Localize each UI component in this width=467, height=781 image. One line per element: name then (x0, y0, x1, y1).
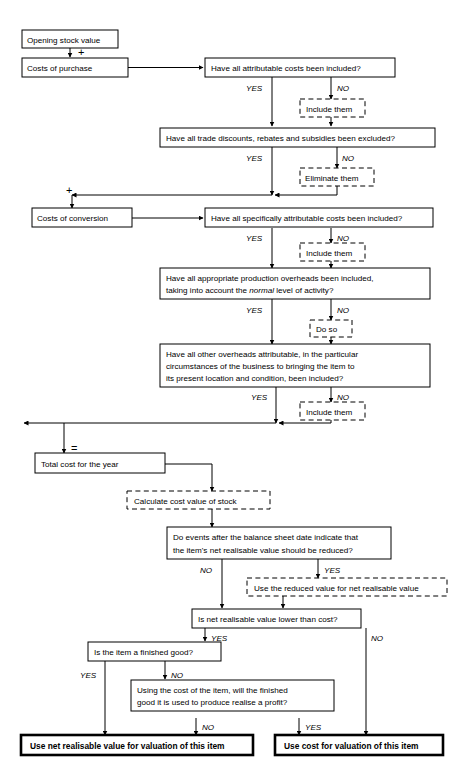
edge-label-q5-no: NO (337, 393, 350, 402)
node-include-them-3: Include them (300, 402, 365, 420)
node-include-them-1: Include them (300, 99, 365, 117)
node-costs-of-purchase-label: Costs of purchase (27, 64, 93, 73)
flowchart-canvas: + + = Opening stock value Costs of purch… (0, 0, 467, 781)
node-opening-stock-value: Opening stock value (22, 30, 118, 48)
node-eliminate-them: Eliminate them (300, 168, 374, 186)
node-q-trade-discounts-label: Have all trade discounts, rebates and su… (166, 134, 396, 143)
node-include-them-2: Include them (300, 243, 365, 261)
edge-label-q4-yes: YES (246, 306, 263, 315)
edge-label-q9-no: NO (202, 723, 215, 732)
node-result-use-cost-label: Use cost for valuation of this item (284, 741, 419, 751)
edge-label-q4-no: NO (337, 306, 350, 315)
node-include-them-3-label: Include them (306, 408, 353, 417)
node-eliminate-them-label: Eliminate them (305, 174, 359, 183)
edge-label-q6-no: NO (200, 566, 213, 575)
node-q-other-overheads: Have all other overheads attributable, i… (160, 344, 430, 387)
node-include-them-1-label: Include them (306, 105, 353, 114)
pol2-b: level of activity? (274, 286, 334, 295)
edge-label-q3-yes: YES (246, 234, 263, 243)
edge-label-q5-yes: YES (251, 393, 268, 402)
node-q-specifically-attributable-label: Have all specifically attributable costs… (211, 214, 403, 223)
node-q-finished-good: Is the item a finished good? (88, 642, 221, 661)
node-opening-stock-value-label: Opening stock value (27, 36, 101, 45)
node-costs-of-purchase: Costs of purchase (22, 58, 128, 77)
node-q-events-line2: the item's net realisable value should b… (173, 546, 353, 555)
edge-label-q8-yes: YES (80, 671, 97, 680)
node-q-finished-good-label: Is the item a finished good? (94, 648, 193, 657)
edge-label-q8-no: NO (171, 671, 184, 680)
node-result-use-nrv-label: Use net realisable value for valuation o… (30, 741, 225, 751)
edge-label-q2-yes: YES (246, 154, 263, 163)
node-q-specifically-attributable: Have all specifically attributable costs… (205, 208, 433, 227)
edge-label-q2-no: NO (342, 154, 355, 163)
node-do-so-label: Do so (316, 325, 338, 334)
equals-symbol: = (71, 442, 77, 454)
node-costs-of-conversion-label: Costs of conversion (37, 214, 108, 223)
node-total-cost-for-the-year-label: Total cost for the year (41, 460, 119, 469)
node-q-attributable-costs: Have all attributable costs been include… (205, 58, 395, 77)
node-q-attributable-costs-label: Have all attributable costs been include… (211, 64, 361, 73)
node-use-reduced-value: Use the reduced value for net realisable… (247, 578, 447, 596)
node-q-production-overheads-line1: Have all appropriate production overhead… (166, 274, 373, 283)
node-q-events-line1: Do events after the balance sheet date i… (173, 533, 359, 542)
node-calculate-cost-value: Calculate cost value of stock (127, 491, 270, 509)
node-q-other-overheads-line3: its present location and condition, been… (166, 374, 344, 383)
node-total-cost-for-the-year: Total cost for the year (35, 453, 165, 473)
edge-label-q7-no: NO (371, 634, 384, 643)
edge-label-q1-no: NO (337, 84, 350, 93)
node-q-profit-line1: Using the cost of the item, will the fin… (137, 686, 288, 695)
node-q-profit-line2: good it is used to produce realise a pro… (137, 698, 288, 707)
connector-layer (24, 48, 366, 735)
node-result-use-nrv: Use net realisable value for valuation o… (21, 735, 253, 755)
edge-eliminate-to-bus (275, 186, 337, 195)
node-q-production-overheads-line2: taking into account the normal level of … (166, 286, 334, 295)
node-q-nrv-lower-label: Is net realisable value lower than cost? (198, 615, 338, 624)
node-costs-of-conversion: Costs of conversion (32, 208, 132, 227)
node-q-events-balance-sheet: Do events after the balance sheet date i… (167, 527, 391, 559)
node-result-use-cost: Use cost for valuation of this item (275, 735, 443, 755)
node-q-trade-discounts: Have all trade discounts, rebates and su… (160, 128, 435, 147)
node-include-them-2-label: Include them (306, 249, 353, 258)
edge-label-q9-yes: YES (305, 723, 322, 732)
pol2-italic: normal (249, 286, 274, 295)
node-q-other-overheads-line1: Have all other overheads attributable, i… (166, 350, 358, 359)
node-do-so: Do so (310, 320, 352, 337)
node-calculate-cost-value-label: Calculate cost value of stock (134, 497, 238, 506)
node-q-other-overheads-line2: circumstances of the business to bringin… (166, 362, 355, 371)
edge-label-q6-yes: YES (324, 566, 341, 575)
edge-label-q3-no: NO (337, 234, 350, 243)
edge-total-to-calc (165, 464, 212, 491)
edge-label-q1-yes: YES (246, 84, 263, 93)
node-q-realise-profit: Using the cost of the item, will the fin… (131, 680, 334, 711)
plus-symbol-2: + (66, 184, 72, 196)
node-q-production-overheads: Have all appropriate production overhead… (160, 268, 430, 299)
pol2-a: taking into account the (166, 286, 249, 295)
node-q-nrv-lower-than-cost: Is net realisable value lower than cost? (192, 609, 361, 628)
node-use-reduced-value-label: Use the reduced value for net realisable… (254, 584, 419, 593)
